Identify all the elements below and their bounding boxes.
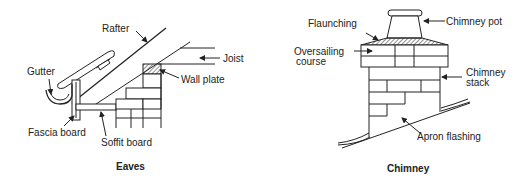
soffit-board — [76, 104, 116, 110]
fascia-leader — [64, 116, 74, 126]
label-flaunching: Flaunching — [308, 18, 357, 29]
gutter-leader — [49, 79, 51, 94]
caption-chimney: Chimney — [387, 163, 430, 174]
label-soffit-board: Soffit board — [101, 137, 152, 148]
rafter-leader — [136, 31, 147, 42]
oversailing-course — [361, 45, 448, 67]
wall-plate-leader — [160, 70, 179, 78]
apron-flashing-left — [338, 133, 369, 143]
label-gutter: Gutter — [27, 66, 55, 77]
label-rafter: Rafter — [102, 23, 130, 34]
brick-wall — [116, 74, 161, 128]
flaunching-leader — [366, 33, 378, 40]
soffit-leader — [101, 112, 106, 136]
label-oversailing-line2: course — [296, 56, 326, 67]
label-wall-plate: Wall plate — [181, 74, 225, 85]
diagram-canvas: Rafter Joist Gutter Wall plate Fascia bo… — [0, 0, 530, 187]
caption-eaves: Eaves — [116, 161, 145, 172]
flaunching — [361, 38, 448, 45]
label-fascia-board: Fascia board — [28, 127, 86, 138]
label-chimney-pot: Chimney pot — [446, 16, 502, 27]
label-chimney-stack-line2: stack — [466, 77, 490, 88]
roof-tile-edge — [58, 51, 115, 89]
eaves-diagram: Rafter Joist Gutter Wall plate Fascia bo… — [27, 23, 244, 172]
chimney-diagram: Flaunching Chimney pot Oversailing cours… — [294, 10, 505, 174]
label-joist: Joist — [223, 53, 244, 64]
wall-plate — [143, 64, 161, 74]
label-apron-flashing: Apron flashing — [417, 131, 481, 142]
chimney-pot-rim — [388, 10, 422, 16]
chimney-pot — [387, 16, 422, 38]
